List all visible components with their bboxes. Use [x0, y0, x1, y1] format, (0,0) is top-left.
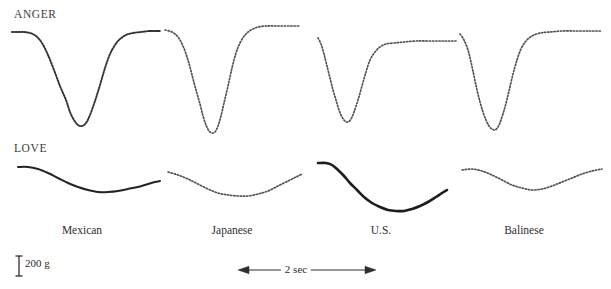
culture-label-japanese: Japanese [212, 224, 253, 236]
trace-love-balinese [462, 169, 602, 190]
culture-label-mexican: Mexican [62, 224, 102, 236]
trace-love-japanese [168, 172, 302, 196]
trace-anger-mexican [12, 31, 160, 126]
culture-label-balinese: Balinese [504, 224, 544, 236]
trace-anger-us [318, 38, 456, 122]
trace-love-us [318, 163, 447, 211]
trace-canvas [0, 0, 611, 289]
time-scale-label: 2 sec [281, 263, 311, 275]
culture-label-us: U.S. [371, 224, 391, 236]
amplitude-scale-label: 200 g [25, 257, 50, 269]
trace-love-mexican [18, 167, 160, 192]
physiological-trace-figure: ANGER LOVE 200 g 2 sec MexicanJapaneseU.… [0, 0, 611, 289]
trace-anger-balinese [460, 31, 602, 130]
trace-anger-japanese [165, 26, 300, 133]
amplitude-scale-bar [16, 256, 23, 276]
